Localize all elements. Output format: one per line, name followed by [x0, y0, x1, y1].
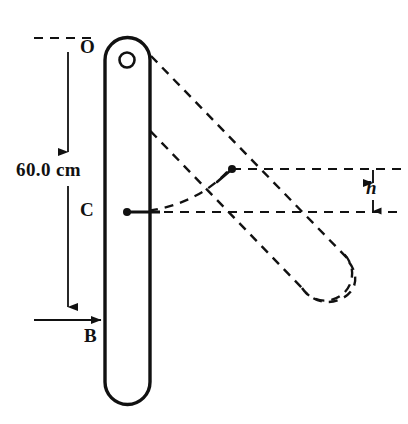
- raised-center-of-mass-dot: [228, 165, 236, 173]
- diagram-canvas: [0, 0, 408, 424]
- label-height-h: h: [366, 177, 377, 199]
- physics-diagram-figure: O C B 60.0 cm h: [0, 0, 408, 424]
- center-of-mass-dot: [123, 208, 131, 216]
- rod-dashed-edge-upper: [151, 56, 348, 259]
- label-bottom-end-B: B: [84, 325, 97, 347]
- rod-dashed-far-cap: [299, 254, 357, 305]
- rod-solid-vertical: [105, 38, 150, 405]
- pivot-hole-icon: [120, 53, 135, 68]
- label-pivot-O: O: [80, 36, 95, 58]
- label-rod-length: 60.0 cm: [16, 159, 81, 181]
- raised-center-tangent-stub: [217, 170, 231, 182]
- label-center-of-mass-C: C: [80, 199, 94, 221]
- rod-dashed-far-cap-curve: [302, 262, 355, 302]
- rod-outline: [105, 38, 150, 405]
- reference-lines: [148, 169, 402, 212]
